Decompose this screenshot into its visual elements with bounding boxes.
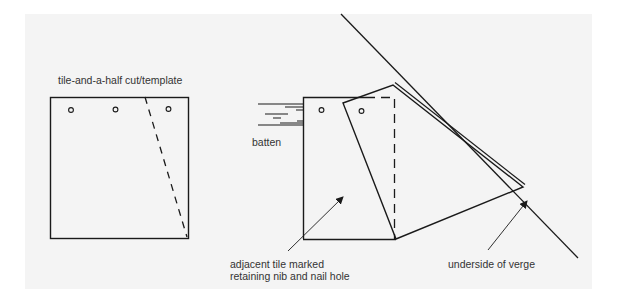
- adjacent-tile-label-line1: adjacent tile marked: [230, 258, 324, 271]
- template-label: tile-and-a-half cut/template: [58, 74, 182, 87]
- batten-icon: [258, 104, 303, 125]
- adjacent-tile-arrow-icon: [288, 197, 343, 251]
- verge-label: underside of verge: [448, 258, 535, 271]
- nail-hole-icon: [69, 108, 74, 113]
- verge-tile-diagram: [0, 0, 618, 301]
- nail-hole-icon: [113, 107, 118, 112]
- nail-hole-icon: [319, 108, 324, 113]
- nail-hole-icon: [166, 107, 171, 112]
- verge-line: [341, 14, 578, 258]
- adjacent-tile-label-line2: retaining nib and nail hole: [230, 270, 350, 283]
- cut-line: [145, 97, 187, 237]
- nail-hole-icon: [359, 109, 364, 114]
- template-tile: [51, 97, 189, 239]
- verge-arrow-icon: [488, 201, 527, 250]
- batten-label: batten: [252, 136, 281, 149]
